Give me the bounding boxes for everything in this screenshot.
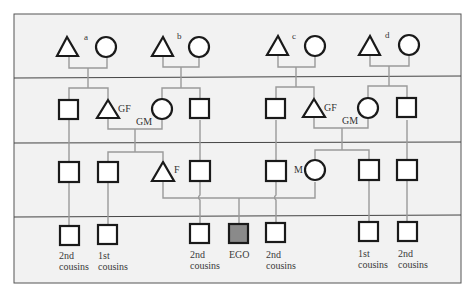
couple-label-b: b	[177, 31, 182, 41]
couple-label-d: d	[385, 30, 390, 40]
square-icon	[266, 161, 286, 181]
first-cousin-square-icon	[359, 222, 378, 241]
caption-first-cousins: 1st cousins	[358, 248, 388, 270]
caption-second-cousins: 2nd cousins	[398, 248, 428, 270]
caption-line1: 2nd	[398, 248, 428, 259]
grandmother-circle-icon	[152, 99, 172, 119]
grandfather-label-left: GF	[118, 103, 131, 114]
caption-line1: EGO	[229, 249, 250, 260]
square-icon	[59, 162, 79, 182]
caption-line2: cousins	[398, 259, 428, 270]
square-icon	[190, 99, 209, 118]
square-icon	[190, 161, 210, 181]
female-circle-icon	[96, 37, 116, 57]
caption-ego: EGO	[229, 249, 250, 260]
grandmother-label-right: GM	[342, 115, 358, 126]
caption-line1: 2nd	[190, 249, 220, 260]
caption-line2: cousins	[358, 259, 388, 270]
square-icon	[397, 98, 416, 117]
second-cousin-square-icon	[266, 223, 285, 242]
square-icon	[359, 160, 379, 180]
generation-row-4	[60, 222, 417, 245]
first-cousin-square-icon	[98, 225, 117, 244]
father-label: F	[174, 164, 180, 175]
caption-second-cousins: 2nd cousins	[266, 249, 296, 271]
female-circle-icon	[189, 37, 209, 57]
grandmother-circle-icon	[358, 98, 378, 118]
square-icon	[266, 99, 285, 118]
female-circle-icon	[305, 36, 325, 56]
mother-circle-icon	[305, 160, 325, 180]
caption-line1: 1st	[358, 248, 388, 259]
square-icon	[59, 100, 78, 119]
caption-second-cousins: 2nd cousins	[59, 250, 89, 272]
square-icon	[397, 160, 417, 180]
second-cousin-square-icon	[60, 226, 79, 245]
grandmother-label-left: GM	[136, 116, 152, 127]
caption-line1: 2nd	[59, 250, 89, 261]
couple-label-c: c	[292, 31, 296, 41]
caption-line2: cousins	[266, 260, 296, 271]
ego-square-icon	[229, 224, 248, 243]
couple-label-a: a	[84, 32, 88, 42]
caption-line1: 1st	[98, 250, 128, 261]
caption-second-cousins: 2nd cousins	[190, 249, 220, 271]
caption-first-cousins: 1st cousins	[98, 250, 128, 272]
second-cousin-square-icon	[190, 224, 209, 243]
female-circle-icon	[399, 35, 419, 55]
second-cousin-square-icon	[398, 222, 417, 241]
caption-line2: cousins	[59, 261, 89, 272]
caption-line2: cousins	[190, 260, 220, 271]
grandfather-label-right: GF	[324, 102, 337, 113]
square-icon	[98, 162, 118, 182]
caption-line2: cousins	[98, 261, 128, 272]
mother-label: M	[294, 164, 303, 175]
caption-line1: 2nd	[266, 249, 296, 260]
